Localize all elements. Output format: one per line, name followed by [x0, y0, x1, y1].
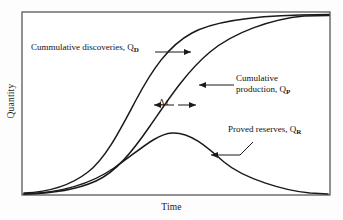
annotation-production-text: production, Q [236, 84, 286, 94]
x-axis-label: Time [0, 202, 343, 212]
annotation-delta-t: Δ t [159, 97, 168, 108]
annotation-production-line2: production, QP [236, 84, 290, 96]
y-axis-label: Quantity [6, 71, 16, 131]
annotation-reserves-subscript: R [296, 128, 301, 136]
annotation-reserves-text: Proved reserves, Q [228, 124, 296, 134]
annotation-cumulative-production: Cumulative production, QP [236, 73, 290, 96]
figure-container: Quantity Time Cummulative discoveries, Q… [0, 0, 343, 220]
annotation-production-line1: Cumulative [236, 73, 290, 84]
plot-frame [22, 12, 330, 195]
annotation-cummulative-discoveries: Cummulative discoveries, QD [31, 42, 139, 54]
chart-canvas [0, 0, 343, 220]
annotation-proved-reserves: Proved reserves, QR [228, 124, 301, 136]
annotation-production-subscript: P [286, 88, 290, 96]
annotation-discoveries-subscript: D [134, 46, 139, 54]
annotation-discoveries-text: Cummulative discoveries, Q [31, 42, 134, 52]
